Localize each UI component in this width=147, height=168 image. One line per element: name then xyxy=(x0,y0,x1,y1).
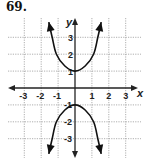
curve-arrowhead-icon xyxy=(95,22,103,32)
x-axis-label: x xyxy=(136,87,144,99)
x-tick-label: 2 xyxy=(106,91,111,101)
hyperbola-graph: xy-3-2-1123321-1-2-3 xyxy=(0,0,147,168)
y-tick-label: -2 xyxy=(64,117,72,127)
x-tick-label: -3 xyxy=(19,91,27,101)
tick-labels: xy-3-2-1123321-1-2-3 xyxy=(19,16,144,144)
y-tick-label: 2 xyxy=(68,50,73,60)
x-tick-label: 1 xyxy=(89,91,94,101)
y-axis-down-arrow-icon xyxy=(72,151,78,158)
curve-arrowhead-icon xyxy=(47,22,55,32)
x-axis-left-arrow-icon xyxy=(8,85,15,91)
y-axis-label: y xyxy=(65,16,73,28)
x-tick-label: -1 xyxy=(53,91,61,101)
y-tick-label: 3 xyxy=(68,33,73,43)
curve-arrowhead-icon xyxy=(95,144,103,154)
y-tick-label: -3 xyxy=(64,134,72,144)
curve-arrowhead-icon xyxy=(47,144,55,154)
y-axis-up-arrow-icon xyxy=(72,18,78,25)
x-tick-label: 3 xyxy=(123,91,128,101)
x-tick-label: -2 xyxy=(36,91,44,101)
